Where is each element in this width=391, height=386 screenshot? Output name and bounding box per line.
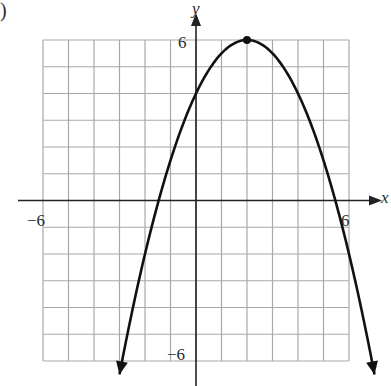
x-tick-label-min: −6: [27, 212, 45, 229]
y-tick-label-max: 6: [178, 34, 187, 51]
y-axis-label: y: [192, 0, 200, 17]
y-tick-label-min: −6: [167, 346, 185, 363]
axes: [18, 13, 382, 386]
parabola-graph: [0, 0, 391, 386]
x-axis-label: x: [381, 189, 389, 206]
x-tick-label-max-visible: 6: [341, 212, 350, 229]
